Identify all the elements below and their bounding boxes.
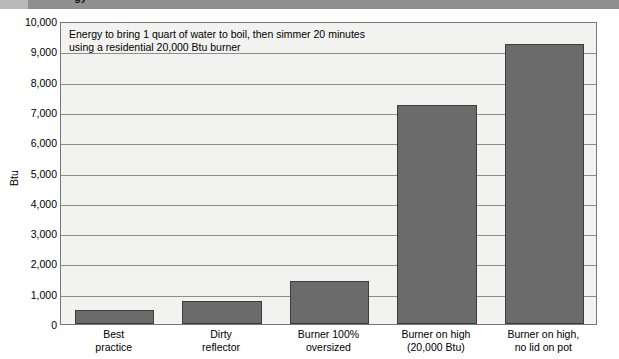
x-tick-label-line: Best: [60, 328, 167, 341]
y-tick-label: 0: [1, 319, 57, 331]
x-axis-tick-labels: BestpracticeDirtyreflectorBurner 100%ove…: [60, 328, 597, 359]
x-tick-label-line: Burner on high: [382, 328, 489, 341]
y-tick-label: 1,000: [1, 289, 57, 301]
x-tick-label: Bestpractice: [60, 328, 167, 353]
x-tick-label-line: Burner on high,: [490, 328, 597, 341]
bar: [397, 105, 476, 324]
header-bar-fill: [28, 0, 619, 9]
x-tick-label-line: no lid on pot: [490, 341, 597, 354]
x-tick-label-line: Dirty: [167, 328, 274, 341]
bar-chart: Btu 01,0002,0003,0004,0005,0006,0007,000…: [0, 12, 619, 359]
y-tick-label: 4,000: [1, 198, 57, 210]
x-tick-label: Burner on high,no lid on pot: [490, 328, 597, 353]
cropped-header-bar: gy: [0, 0, 619, 9]
x-tick-label-line: (20,000 Btu): [382, 341, 489, 354]
x-tick-label: Burner on high(20,000 Btu): [382, 328, 489, 353]
y-tick-label: 3,000: [1, 228, 57, 240]
bar: [505, 44, 584, 324]
y-axis-tick-labels: 01,0002,0003,0004,0005,0006,0007,0008,00…: [0, 22, 57, 325]
x-tick-label: Burner 100%oversized: [275, 328, 382, 353]
bar: [182, 301, 261, 324]
x-tick-label-line: Burner 100%: [275, 328, 382, 341]
y-tick-label: 5,000: [1, 168, 57, 180]
y-tick-label: 9,000: [1, 46, 57, 58]
x-tick-label-line: practice: [60, 341, 167, 354]
y-tick-label: 8,000: [1, 77, 57, 89]
y-tick-label: 10,000: [1, 16, 57, 28]
y-tick-label: 7,000: [1, 107, 57, 119]
plot-area: Energy to bring 1 quart of water to boil…: [60, 22, 597, 325]
bar: [290, 281, 369, 324]
x-tick-label: Dirtyreflector: [167, 328, 274, 353]
x-tick-label-line: reflector: [167, 341, 274, 354]
header-partial-title: gy: [74, 0, 87, 3]
y-tick-label: 2,000: [1, 258, 57, 270]
bar: [75, 310, 154, 324]
annotation-line-1: Energy to bring 1 quart of water to boil…: [69, 28, 581, 41]
y-tick-label: 6,000: [1, 137, 57, 149]
x-tick-label-line: oversized: [275, 341, 382, 354]
